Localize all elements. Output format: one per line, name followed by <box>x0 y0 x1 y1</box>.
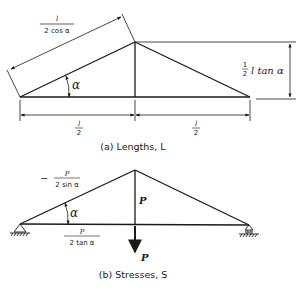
roller-support-icon <box>239 225 259 237</box>
svg-text:2: 2 <box>77 129 81 137</box>
svg-text:1: 1 <box>243 61 247 69</box>
chord-length-label: l 2 cos α <box>40 15 74 35</box>
angle-marker-a: α <box>66 76 80 97</box>
tie-stress-label: P 2 tan α <box>64 228 100 247</box>
svg-text:−: − <box>40 173 48 184</box>
vertical-stress-label: P <box>138 195 147 206</box>
bottom-tie <box>20 224 249 225</box>
half-span-left-label: l 2 <box>75 120 83 137</box>
svg-text:l tan α: l tan α <box>251 65 284 76</box>
svg-text:2 sin α: 2 sin α <box>55 181 79 189</box>
pin-support-icon <box>10 224 30 236</box>
caption-a: (a) Lengths, L <box>100 141 166 152</box>
svg-text:l: l <box>78 120 80 128</box>
svg-text:l: l <box>56 15 58 23</box>
svg-text:l: l <box>195 120 197 128</box>
svg-text:2 tan α: 2 tan α <box>70 239 95 247</box>
svg-text:2: 2 <box>194 129 198 137</box>
angle-marker-b: α <box>65 203 78 224</box>
load-label: P <box>140 252 149 263</box>
truss-a-members <box>20 42 250 97</box>
right-chord <box>135 42 250 97</box>
svg-text:α: α <box>72 78 80 92</box>
half-span-right-label: l 2 <box>192 120 200 137</box>
svg-text:α: α <box>70 206 78 220</box>
svg-text:P: P <box>64 170 70 178</box>
chord-length-dimension <box>7 14 135 97</box>
svg-text:P: P <box>79 228 85 236</box>
height-label: 1 2 l tan α <box>242 61 284 78</box>
caption-b: (b) Stresses, S <box>99 269 168 280</box>
right-chord <box>135 170 249 225</box>
span-dimension <box>20 100 250 121</box>
figure-a-lengths: l 2 cos α α 1 2 l tan α <box>7 14 296 152</box>
truss-diagram: l 2 cos α α 1 2 l tan α <box>0 0 297 297</box>
svg-text:2: 2 <box>243 70 247 78</box>
svg-text:2 cos α: 2 cos α <box>44 27 70 35</box>
figure-b-stresses: P α <box>10 170 259 280</box>
chord-stress-label: − P 2 sin α <box>40 170 80 189</box>
